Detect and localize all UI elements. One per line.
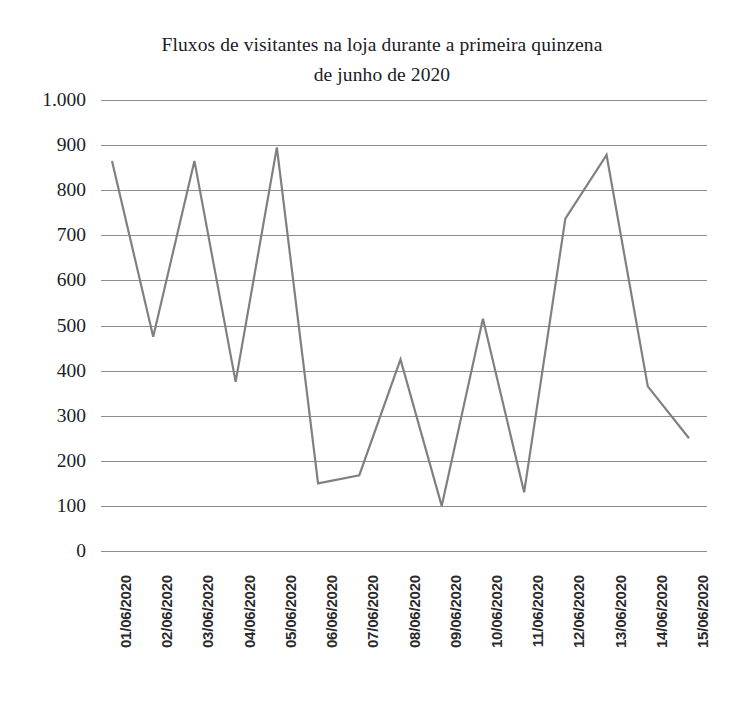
y-tick-mark: [101, 235, 110, 236]
x-axis: 01/06/202002/06/202003/06/202004/06/2020…: [110, 551, 707, 711]
y-tick-mark: [101, 280, 110, 281]
y-tick-label: 0: [76, 540, 86, 562]
chart-title-line-1: Fluxos de visitantes na loja durante a p…: [92, 30, 672, 60]
y-tick-label: 500: [57, 315, 86, 337]
x-tick-label: 07/06/2020: [364, 575, 381, 648]
x-tick-label: 01/06/2020: [117, 575, 134, 648]
y-tick-label: 700: [57, 224, 86, 246]
x-tick-label: 04/06/2020: [241, 575, 258, 648]
x-tick-label: 15/06/2020: [694, 575, 711, 648]
series-line-visitor-flow: [110, 100, 707, 551]
chart-title-line-2: de junho de 2020: [92, 60, 672, 90]
x-tick-label: 13/06/2020: [612, 575, 629, 648]
x-tick-label: 03/06/2020: [199, 575, 216, 648]
chart-title: Fluxos de visitantes na loja durante a p…: [92, 30, 672, 90]
y-tick-mark: [101, 506, 110, 507]
x-tick-label: 12/06/2020: [570, 575, 587, 648]
y-tick-label: 900: [57, 134, 86, 156]
x-tick-label: 06/06/2020: [323, 575, 340, 648]
y-tick-label: 200: [57, 450, 86, 472]
x-tick-label: 08/06/2020: [406, 575, 423, 648]
visitor-flow-line-chart: Fluxos de visitantes na loja durante a p…: [0, 0, 744, 715]
y-tick-label: 1.000: [42, 89, 86, 111]
y-tick-mark: [101, 190, 110, 191]
y-tick-mark: [101, 371, 110, 372]
y-tick-label: 100: [57, 495, 86, 517]
y-tick-mark: [101, 461, 110, 462]
y-tick-label: 400: [57, 360, 86, 382]
x-tick-label: 10/06/2020: [488, 575, 505, 648]
y-tick-mark: [101, 551, 110, 552]
y-tick-mark: [101, 326, 110, 327]
x-tick-label: 05/06/2020: [282, 575, 299, 648]
x-tick-label: 02/06/2020: [158, 575, 175, 648]
y-tick-mark: [101, 100, 110, 101]
y-tick-mark: [101, 416, 110, 417]
x-tick-label: 09/06/2020: [447, 575, 464, 648]
y-tick-label: 300: [57, 405, 86, 427]
y-tick-label: 600: [57, 269, 86, 291]
series-polyline: [112, 147, 689, 506]
y-axis: 1.0009008007006005004003002001000: [0, 100, 100, 551]
x-tick-label: 14/06/2020: [653, 575, 670, 648]
x-tick-label: 11/06/2020: [529, 575, 546, 647]
y-tick-mark: [101, 145, 110, 146]
y-tick-label: 800: [57, 179, 86, 201]
